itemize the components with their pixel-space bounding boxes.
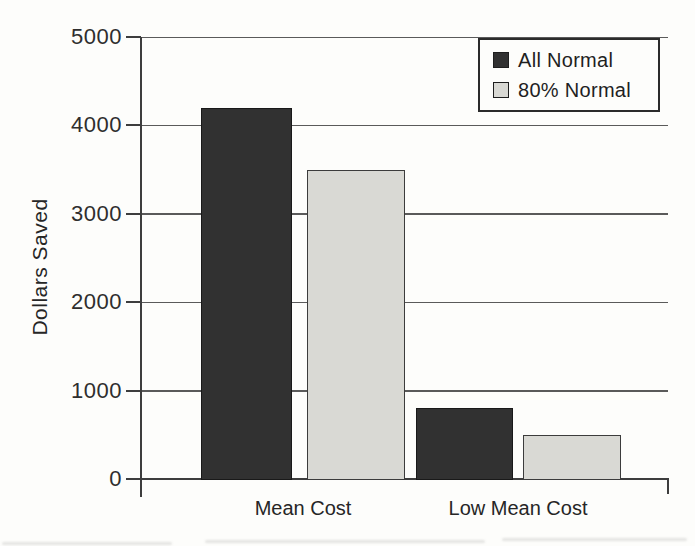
scan-smudge [2, 542, 172, 545]
legend-box: All Normal80% Normal [478, 38, 660, 112]
legend-item: 80% Normal [493, 79, 658, 102]
x-category-label-low-mean-cost: Low Mean Cost [408, 497, 628, 519]
y-tick-label-0: 0 [22, 467, 122, 491]
legend-item: All Normal [493, 49, 658, 72]
bar-all-normal-mean-cost [201, 108, 292, 480]
legend-label: All Normal [518, 49, 613, 72]
y-tick-label-4000: 4000 [22, 113, 122, 137]
legend-label: 80% Normal [518, 79, 631, 102]
y-tick-4000 [126, 124, 141, 126]
bar-all-normal-low-mean-cost [416, 408, 513, 480]
y-tick-5000 [126, 36, 141, 38]
y-tick-label-3000: 3000 [22, 202, 122, 226]
bar-chart-figure: Dollars Saved 010002000300040005000 Mean… [0, 0, 695, 546]
y-tick-label-5000: 5000 [22, 25, 122, 49]
y-tick-label-2000: 2000 [22, 290, 122, 314]
y-tick-label-1000: 1000 [22, 379, 122, 403]
y-tick-0 [126, 478, 141, 480]
bar-80-normal-mean-cost [307, 170, 405, 480]
y-tick-1000 [126, 390, 141, 392]
bar-80-normal-low-mean-cost [523, 435, 621, 480]
legend-swatch-icon [493, 52, 509, 68]
scan-smudge [205, 540, 485, 543]
y-tick-2000 [126, 301, 141, 303]
y-tick-3000 [126, 213, 141, 215]
legend-swatch-icon [493, 82, 509, 98]
y-axis-line [140, 37, 142, 497]
x-category-label-mean-cost: Mean Cost [193, 497, 413, 519]
scan-smudge [502, 538, 687, 541]
x-axis-end-tick [667, 478, 669, 494]
